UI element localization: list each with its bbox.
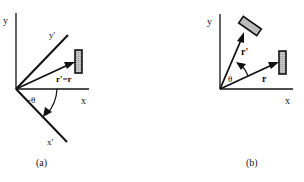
arrowhead-icon xyxy=(237,32,244,43)
y-axis-label: y xyxy=(3,15,8,26)
panel-b: y r' θ r x (b) xyxy=(207,14,293,169)
x-prime-axis xyxy=(16,89,67,142)
arrowhead-icon xyxy=(64,62,75,69)
object-rectangle xyxy=(279,51,286,74)
object-rectangle xyxy=(75,50,82,73)
rotated-object-rectangle xyxy=(239,16,262,35)
y-prime-label: y' xyxy=(49,30,56,40)
rotation-diagram: y y' r'=r x -θ x' (a) y r' θ r x (b) xyxy=(0,0,304,182)
panel-b-caption: (b) xyxy=(246,157,258,169)
vector-r-prime-label: r' xyxy=(241,46,248,57)
x-prime-label: x' xyxy=(47,137,54,147)
x-axis-label: x xyxy=(81,95,86,106)
angle-label: -θ xyxy=(28,95,35,105)
arrowhead-icon xyxy=(268,62,279,69)
panel-a: y y' r'=r x -θ x' (a) xyxy=(3,13,89,169)
panel-a-caption: (a) xyxy=(36,157,47,169)
x-axis-label: x xyxy=(285,95,290,106)
y-axis-label: y xyxy=(207,16,212,27)
angle-label: θ xyxy=(228,74,232,84)
vector-r-label: r xyxy=(262,73,267,84)
vector-label: r'=r xyxy=(56,74,72,84)
